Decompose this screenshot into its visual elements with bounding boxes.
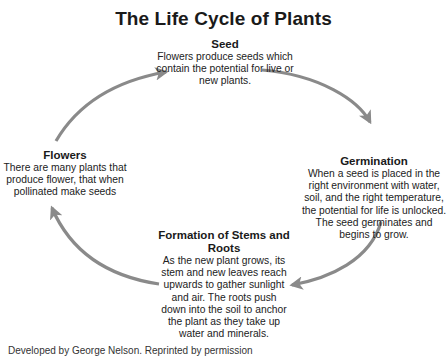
stage-description: There are many plants that produce flowe… (0, 162, 130, 199)
stage-seed: Seed Flowers produce seeds which contain… (150, 38, 300, 88)
stage-heading: Formation of Stems and Roots (158, 229, 290, 255)
stage-description: As the new plant grows, its stem and new… (158, 255, 290, 340)
stage-heading: Germination (301, 155, 447, 168)
stage-flowers: Flowers There are many plants that produ… (0, 149, 130, 199)
stage-stems-and-roots: Formation of Stems and Roots As the new … (158, 229, 290, 340)
stage-description: When a seed is placed in the right envir… (301, 168, 447, 241)
credit-line: Developed by George Nelson. Reprinted by… (8, 345, 253, 356)
stage-germination: Germination When a seed is placed in the… (301, 155, 447, 241)
stage-description: Flowers produce seeds which contain the … (150, 51, 300, 88)
arrow-stems-to-flowers (52, 208, 159, 284)
stage-heading: Seed (150, 38, 300, 51)
stage-heading: Flowers (0, 149, 130, 162)
